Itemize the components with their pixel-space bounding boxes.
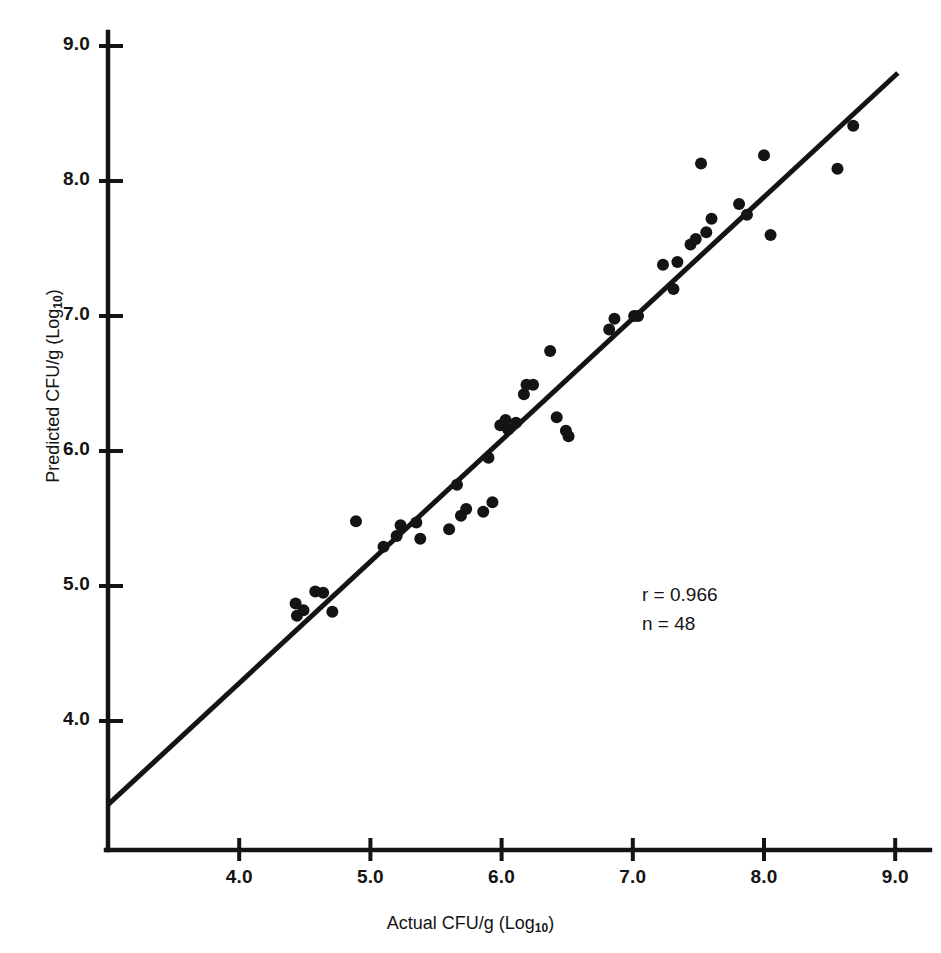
x-axis-title: Actual CFU/g (Log10): [0, 913, 941, 935]
y-tick-label-4.0: 4.0: [34, 708, 90, 730]
x-tick-label-7.0: 7.0: [598, 866, 668, 888]
data-point: [291, 610, 303, 622]
data-point: [486, 496, 498, 508]
data-point: [667, 283, 679, 295]
data-point: [451, 479, 463, 491]
y-axis-title: Predicted CFU/g (Log10): [43, 221, 65, 551]
data-point: [831, 163, 843, 175]
data-point: [551, 411, 563, 423]
sample-size-label: n = 48: [642, 609, 718, 638]
regression-line: [108, 73, 898, 805]
data-point: [695, 157, 707, 169]
x-axis-title-suffix: ): [548, 913, 554, 933]
data-point: [700, 226, 712, 238]
data-point: [378, 541, 390, 553]
data-point: [391, 530, 403, 542]
data-point: [326, 606, 338, 618]
data-point: [350, 515, 362, 527]
data-point: [706, 213, 718, 225]
data-point: [477, 506, 489, 518]
data-point: [290, 598, 302, 610]
y-tick-label-9.0: 9.0: [34, 33, 90, 55]
x-tick-label-8.0: 8.0: [729, 866, 799, 888]
data-point: [690, 233, 702, 245]
data-point: [443, 523, 455, 535]
data-point: [671, 256, 683, 268]
data-point: [733, 198, 745, 210]
scatter-plot-figure: 4.05.06.07.08.09.0 4.05.06.07.08.09.0 Ac…: [0, 0, 941, 953]
data-point: [603, 324, 615, 336]
data-point: [563, 430, 575, 442]
data-point: [414, 533, 426, 545]
data-point: [847, 120, 859, 132]
x-tick-label-5.0: 5.0: [335, 866, 405, 888]
data-point: [510, 417, 522, 429]
data-point: [608, 313, 620, 325]
tick-marks: [99, 46, 895, 861]
data-point: [527, 379, 539, 391]
data-point: [741, 209, 753, 221]
plot-canvas: [0, 0, 941, 953]
data-point: [632, 310, 644, 322]
x-tick-label-6.0: 6.0: [467, 866, 537, 888]
y-axis-title-subscript: 10: [51, 295, 65, 308]
data-point: [460, 503, 472, 515]
data-point: [482, 452, 494, 464]
x-axis-title-subscript: 10: [535, 921, 548, 935]
data-point: [544, 345, 556, 357]
x-tick-label-4.0: 4.0: [204, 866, 274, 888]
x-axis-title-prefix: Actual CFU/g (Log: [387, 913, 535, 933]
correlation-label: r = 0.966: [642, 580, 718, 609]
y-axis-title-prefix: Predicted CFU/g (Log: [43, 309, 63, 483]
y-tick-label-5.0: 5.0: [34, 573, 90, 595]
y-tick-label-8.0: 8.0: [34, 168, 90, 190]
data-point: [410, 517, 422, 529]
data-point: [395, 519, 407, 531]
data-point: [758, 149, 770, 161]
regression-line: [108, 73, 898, 805]
data-point: [765, 229, 777, 241]
x-tick-label-9.0: 9.0: [860, 866, 930, 888]
statistics-annotation: r = 0.966 n = 48: [642, 580, 718, 638]
y-axis-title-suffix: ): [43, 289, 63, 295]
data-point: [657, 259, 669, 271]
data-point: [317, 587, 329, 599]
